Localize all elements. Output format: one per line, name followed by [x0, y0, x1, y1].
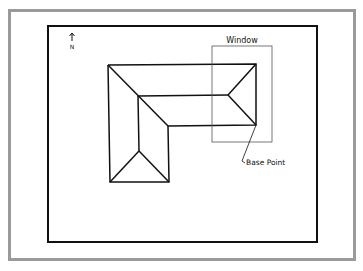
north-label: N — [70, 43, 75, 50]
north-arrow-icon — [70, 33, 75, 41]
roof-outline — [108, 64, 256, 182]
drawing-border — [48, 26, 317, 242]
selection-window — [212, 46, 272, 142]
base-point-label: Base Point — [246, 158, 285, 167]
window-label: Window — [226, 36, 258, 45]
outer-frame — [10, 11, 355, 260]
roof-plan-drawing: N Window Base Point — [0, 0, 363, 271]
